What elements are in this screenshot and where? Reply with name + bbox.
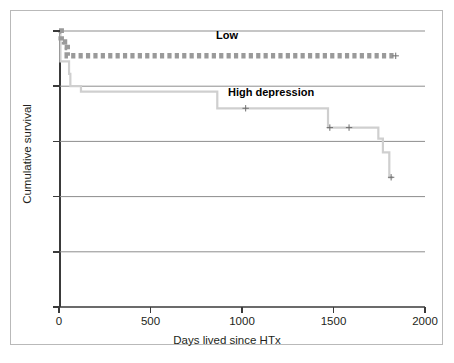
series-label-high-depression: High depression (228, 86, 314, 98)
y-tick (53, 251, 60, 253)
censoring-mark (346, 124, 352, 130)
y-tick (53, 141, 60, 143)
series-path (59, 31, 393, 177)
kaplan-meier-figure: 0,00,20,40,60,81,0 0500100015002000 Low … (0, 0, 454, 363)
x-tick-label: 1500 (304, 315, 364, 327)
y-axis-title: Cumulative survival (21, 54, 33, 254)
curves-layer (59, 31, 425, 307)
x-tick (241, 307, 243, 313)
series-label-low: Low (216, 29, 238, 41)
x-tick (150, 307, 152, 313)
y-tick (53, 30, 60, 32)
y-tick (53, 85, 60, 87)
plot-area (59, 31, 425, 306)
x-axis-title: Days lived since HTx (0, 334, 454, 346)
x-tick (58, 307, 60, 313)
y-tick (53, 196, 60, 198)
x-tick-label: 500 (121, 315, 181, 327)
x-tick (333, 307, 335, 313)
gridlines-group (59, 31, 425, 307)
x-tick (424, 307, 426, 313)
x-tick-label: 0 (29, 315, 89, 327)
x-tick-label: 2000 (395, 315, 454, 327)
censoring-mark (242, 105, 248, 111)
x-tick-label: 1000 (212, 315, 272, 327)
